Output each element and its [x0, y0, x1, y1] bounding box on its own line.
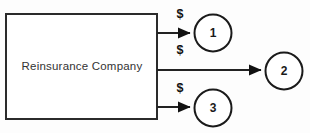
- reinsurance-flow-diagram: Reinsurance Company 1 2 3 $ $ $: [0, 0, 310, 133]
- money-label-3: $: [177, 81, 184, 95]
- reinsurance-company-label: Reinsurance Company: [22, 60, 143, 72]
- node-label-3: 3: [210, 101, 217, 115]
- money-label-1: $: [177, 7, 184, 21]
- diagram-canvas: Reinsurance Company 1 2 3 $ $ $: [0, 0, 310, 133]
- node-label-1: 1: [210, 26, 217, 40]
- money-label-2: $: [177, 43, 184, 57]
- node-label-2: 2: [281, 64, 288, 78]
